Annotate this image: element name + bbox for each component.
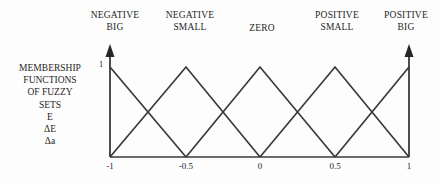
membership-curve-positive-small [260, 67, 409, 157]
y-axis-right-arrow-icon [405, 44, 414, 57]
membership-function-plot [0, 0, 439, 184]
fuzzy-membership-figure: NEGATIVE BIG NEGATIVE SMALL ZERO POSITIV… [0, 0, 439, 184]
membership-curve-zero [186, 67, 335, 157]
membership-curve-negative-small [110, 67, 260, 157]
y-axis-left-arrow-icon [106, 44, 115, 57]
